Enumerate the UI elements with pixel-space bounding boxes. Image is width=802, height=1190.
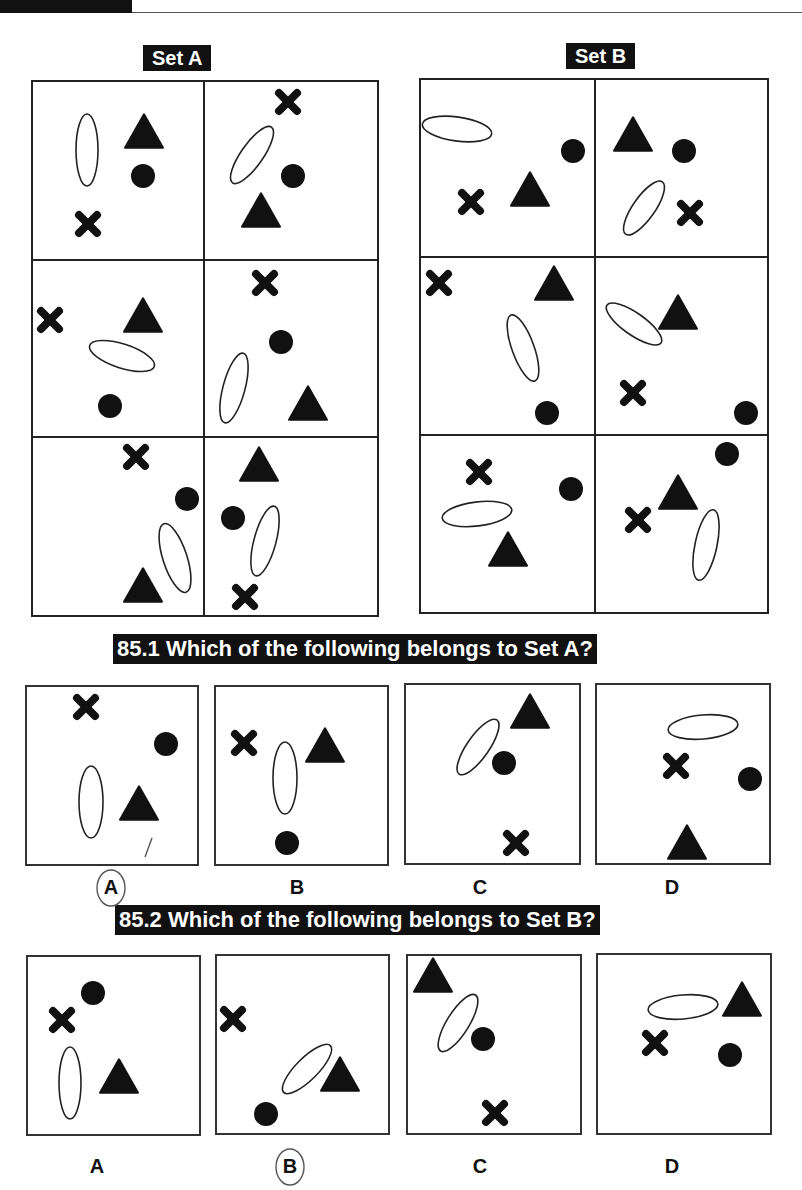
circle-shape [154, 732, 178, 756]
ellipse-shape [273, 742, 297, 814]
circle-shape [718, 1043, 742, 1067]
q2-option-c-label[interactable]: C [465, 1155, 495, 1178]
cross-shape [624, 384, 642, 402]
q2-option-a-label[interactable]: A [82, 1155, 112, 1178]
cross-shape [79, 215, 97, 233]
circle-shape [98, 394, 122, 418]
pen-tick-mark [145, 838, 152, 857]
ellipse-shape [601, 296, 668, 352]
option-box[interactable] [216, 955, 389, 1134]
ellipse-shape [223, 121, 280, 189]
q1-option-a-label[interactable]: A [96, 876, 126, 899]
triangle-shape [659, 295, 697, 328]
option-box[interactable] [405, 684, 580, 864]
cross-shape [430, 274, 448, 292]
circle-shape [254, 1102, 278, 1126]
option-box[interactable] [26, 686, 198, 865]
cross-shape [629, 511, 647, 529]
cross-shape [235, 734, 253, 752]
cross-shape [667, 757, 685, 775]
ellipse-shape [441, 498, 513, 530]
ellipse-shape [214, 350, 254, 425]
cross-shape [462, 193, 480, 211]
circle-shape [715, 442, 739, 466]
triangle-shape [659, 475, 697, 508]
option-box[interactable] [597, 954, 771, 1134]
ellipse-shape [79, 766, 103, 838]
ellipse-shape [152, 520, 197, 596]
ellipse-shape [86, 334, 158, 378]
cross-shape [470, 463, 488, 481]
circle-shape [672, 139, 696, 163]
set-a-grid-cell-2 [223, 93, 305, 227]
cross-shape [77, 698, 95, 716]
triangle-shape [489, 532, 527, 565]
circle-shape [492, 751, 516, 775]
q1-option-b[interactable] [215, 686, 388, 865]
circle-shape [734, 401, 758, 425]
circle-shape [269, 330, 293, 354]
triangle-shape [535, 266, 573, 299]
q2-option-d[interactable] [597, 954, 771, 1134]
circle-shape [131, 164, 155, 188]
q1-option-d-label[interactable]: D [657, 876, 687, 899]
q2-option-d-label[interactable]: D [657, 1155, 687, 1178]
ellipse-shape [617, 175, 672, 240]
set-a-grid-cell-6 [221, 447, 285, 606]
triangle-shape [511, 694, 549, 727]
triangle-shape [124, 298, 162, 331]
set-a-grid-cell-1 [76, 114, 163, 233]
q2-option-b[interactable] [216, 955, 389, 1134]
circle-shape [471, 1027, 495, 1051]
cross-shape [279, 93, 297, 111]
set-b-grid-cell-5 [441, 463, 583, 566]
q1-option-d[interactable] [596, 684, 770, 864]
cross-shape [646, 1034, 664, 1052]
set-b-grid-cell-6 [629, 442, 739, 583]
option-box[interactable] [27, 956, 200, 1135]
puzzle-canvas [0, 0, 802, 1190]
set-b-grid-cell-2 [614, 117, 699, 240]
cross-shape [507, 834, 525, 852]
circle-shape [175, 487, 199, 511]
ellipse-shape [501, 311, 546, 384]
q1-option-a[interactable] [26, 686, 198, 865]
option-box[interactable] [215, 686, 388, 865]
cross-shape [256, 274, 274, 292]
triangle-shape [242, 193, 280, 226]
circle-shape [559, 477, 583, 501]
cross-shape [224, 1010, 242, 1028]
cross-shape [486, 1104, 504, 1122]
circle-shape [81, 981, 105, 1005]
triangle-shape [120, 786, 158, 819]
cross-shape [127, 448, 145, 466]
ellipse-shape [59, 1047, 81, 1119]
circle-shape [281, 164, 305, 188]
q1-option-c-label[interactable]: C [465, 876, 495, 899]
set-a-grid-cell-3 [41, 298, 162, 418]
set-b-grid-cell-4 [601, 295, 758, 425]
cross-shape [41, 311, 59, 329]
q1-option-b-label[interactable]: B [282, 876, 312, 899]
circle-shape [221, 506, 245, 530]
cross-shape [681, 204, 699, 222]
triangle-shape [240, 447, 278, 480]
q2-option-b-label[interactable]: B [275, 1155, 305, 1178]
q1-option-c[interactable] [405, 684, 580, 864]
ellipse-shape [76, 114, 98, 186]
triangle-shape [668, 825, 706, 858]
q2-option-a[interactable] [27, 956, 200, 1135]
ellipse-shape [421, 112, 494, 146]
triangle-shape [124, 568, 162, 601]
ellipse-shape [667, 712, 739, 742]
circle-shape [275, 831, 299, 855]
triangle-shape [614, 117, 652, 150]
circle-shape [561, 139, 585, 163]
set-a-grid-cell-4 [214, 274, 327, 426]
q2-option-c[interactable] [407, 955, 581, 1134]
circle-shape [535, 401, 559, 425]
ellipse-shape [647, 992, 719, 1022]
triangle-shape [100, 1059, 138, 1092]
cross-shape [53, 1011, 71, 1029]
triangle-shape [125, 114, 163, 147]
